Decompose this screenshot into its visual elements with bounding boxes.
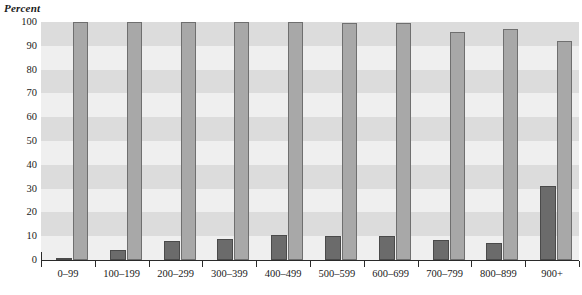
x-axis-tick-label: 300–399 xyxy=(211,268,248,279)
x-axis-tick-label: 800–899 xyxy=(480,268,517,279)
bar-series-a xyxy=(217,239,233,260)
bar-series-b xyxy=(234,22,249,260)
plot-area xyxy=(41,22,579,260)
background-band xyxy=(41,46,579,70)
background-band xyxy=(41,70,579,94)
background-band xyxy=(41,165,579,189)
background-band xyxy=(41,189,579,213)
bar-series-a xyxy=(486,243,502,260)
y-axis-tick-label: 40 xyxy=(3,160,37,171)
y-axis-tick-label: 20 xyxy=(3,207,37,218)
y-axis-tick-label: 80 xyxy=(3,64,37,75)
x-axis-tick-label: 0–99 xyxy=(57,268,78,279)
x-axis-tick-label: 200–299 xyxy=(157,268,194,279)
x-axis-tick-label: 400–499 xyxy=(265,268,302,279)
x-axis-tick xyxy=(202,261,203,267)
bar-series-a xyxy=(433,240,449,260)
x-axis-tick xyxy=(364,261,365,267)
background-band xyxy=(41,22,579,46)
bar-series-a xyxy=(325,236,341,260)
background-band xyxy=(41,141,579,165)
x-axis-tick-label: 500–599 xyxy=(319,268,356,279)
x-axis-tick-label: 600–699 xyxy=(372,268,409,279)
x-axis-tick xyxy=(256,261,257,267)
bar-series-b xyxy=(73,22,88,260)
x-axis-tick-label: 900+ xyxy=(541,268,563,279)
bar-chart: Percent 0102030405060708090100 0–99100–1… xyxy=(0,0,582,295)
x-axis-tick xyxy=(95,261,96,267)
bar-series-b xyxy=(127,22,142,260)
bar-series-b xyxy=(450,32,465,260)
bar-series-a xyxy=(271,235,287,260)
y-axis-tick-label: 90 xyxy=(3,41,37,52)
x-axis-tick xyxy=(471,261,472,267)
x-axis-tick xyxy=(41,261,42,267)
bar-series-b xyxy=(288,22,303,260)
x-axis-tick xyxy=(525,261,526,267)
y-axis-tick-label: 10 xyxy=(3,231,37,242)
x-axis-tick xyxy=(579,261,580,267)
y-axis-tick-labels: 0102030405060708090100 xyxy=(0,0,37,295)
y-axis-tick-label: 60 xyxy=(3,112,37,123)
bar-series-a xyxy=(164,241,180,260)
x-axis-tick xyxy=(418,261,419,267)
background-band xyxy=(41,117,579,141)
bar-series-b xyxy=(181,22,196,260)
bar-series-a xyxy=(379,236,395,260)
bar-series-b xyxy=(342,23,357,260)
y-axis-tick-label: 0 xyxy=(3,255,37,266)
x-axis-tick-label: 700–799 xyxy=(426,268,463,279)
bar-series-a xyxy=(540,186,556,260)
background-band xyxy=(41,93,579,117)
bar-series-b xyxy=(557,41,572,260)
bar-series-a xyxy=(110,250,126,260)
background-band xyxy=(41,212,579,236)
y-axis-tick-label: 70 xyxy=(3,88,37,99)
y-axis-tick-label: 100 xyxy=(3,17,37,28)
y-axis-tick-label: 50 xyxy=(3,136,37,147)
bar-series-b xyxy=(503,29,518,260)
y-axis-tick-label: 30 xyxy=(3,183,37,194)
x-axis-tick xyxy=(310,261,311,267)
bar-series-b xyxy=(396,23,411,260)
x-axis-tick-label: 100–199 xyxy=(103,268,140,279)
x-axis-tick xyxy=(149,261,150,267)
